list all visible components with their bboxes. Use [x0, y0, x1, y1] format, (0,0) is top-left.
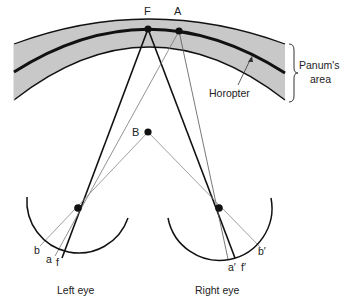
label-retina-b: b [34, 244, 40, 256]
label-B: B [132, 126, 139, 138]
label-retina-b-prime: b′ [258, 245, 266, 257]
point-B-dot [144, 128, 151, 135]
left-eye-nodal-point [74, 204, 82, 212]
label-retina-a-prime: a′ [228, 261, 236, 273]
label-horopter: Horopter [209, 87, 250, 99]
line-A-left [55, 31, 179, 256]
point-F-dot [144, 25, 151, 32]
point-A-dot [175, 27, 182, 34]
label-panum-line1: Panum's [299, 59, 340, 71]
line-B-left [40, 132, 148, 246]
label-retina-f-prime: f′ [241, 261, 246, 273]
label-left-eye: Left eye [57, 284, 95, 296]
panum-area-diagram: F A B Horopter Panum's area b a f a′ f′ … [0, 0, 350, 304]
label-F: F [144, 5, 151, 17]
label-retina-a: a [46, 253, 52, 265]
panum-brace [289, 44, 298, 102]
line-A-right [179, 31, 228, 259]
label-retina-f: f [56, 256, 59, 268]
label-A: A [174, 5, 182, 17]
label-right-eye: Right eye [195, 284, 240, 296]
label-panum-line2: area [310, 73, 331, 85]
right-eye-nodal-point [215, 204, 223, 212]
